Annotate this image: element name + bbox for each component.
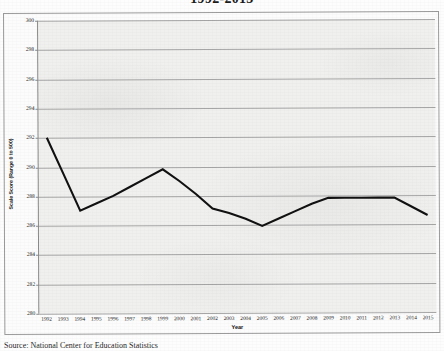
- y-tick-label: 280: [27, 311, 35, 317]
- source-note: Source: National Center for Education St…: [4, 341, 158, 351]
- chart-frame: Scale Score (Range 0 to 500) 30029829629…: [3, 11, 440, 335]
- x-tick-label: 1997: [124, 316, 135, 321]
- x-tick-label: 2007: [290, 316, 301, 321]
- y-tick-label: 296: [26, 77, 34, 83]
- x-axis-label: Year: [38, 323, 436, 331]
- data-line-series: [38, 19, 436, 313]
- y-tick-label: 282: [27, 282, 35, 288]
- x-tick-label: 2010: [340, 315, 351, 320]
- y-tick-label: 300: [26, 18, 34, 24]
- y-tick-label: 298: [26, 47, 34, 53]
- x-tick-label: 2012: [373, 315, 384, 320]
- y-axis-label: Scale Score (Range 0 to 500): [8, 138, 14, 209]
- chart-title: 1992-2015: [0, 0, 444, 7]
- x-tick-label: 2009: [323, 316, 334, 321]
- x-tick-label: 2002: [207, 316, 218, 321]
- x-tick-label: 2005: [257, 316, 268, 321]
- x-tick-label: 1996: [108, 316, 119, 321]
- y-tick-label: 290: [26, 165, 34, 171]
- scale-score-line: [47, 136, 428, 227]
- plot-area: 300298296294292290288286284282280: [37, 19, 436, 314]
- x-tick-label: 1992: [41, 317, 52, 322]
- x-tick-label: 2004: [240, 316, 251, 321]
- x-tick-label: 2008: [307, 316, 318, 321]
- x-tick-label: 2013: [389, 315, 400, 320]
- x-tick-label: 1999: [157, 316, 168, 321]
- scanned-chart-page: 1992-2015 Scale Score (Range 0 to 500) 3…: [0, 0, 444, 351]
- x-tick-label: 1993: [58, 317, 69, 322]
- y-tick-label: 284: [27, 252, 35, 258]
- x-tick-label: 2015: [423, 315, 434, 320]
- x-tick-label: 2000: [174, 316, 185, 321]
- x-tick-label: 2006: [273, 316, 284, 321]
- x-tick-label: 1995: [91, 317, 102, 322]
- y-tick-label: 286: [27, 223, 35, 229]
- y-tick-label: 288: [26, 194, 34, 200]
- x-tick-label: 2001: [190, 316, 201, 321]
- x-tick-label: 2014: [406, 315, 417, 320]
- x-tick-label: 2003: [224, 316, 235, 321]
- y-tick-label: 294: [26, 106, 34, 112]
- x-tick-label: 2011: [356, 315, 367, 320]
- x-tick-label: 1994: [74, 317, 85, 322]
- y-tick-label: 292: [26, 135, 34, 141]
- x-tick-label: 1998: [141, 316, 152, 321]
